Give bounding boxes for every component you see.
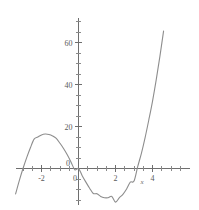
x-tick-label: -2	[38, 174, 45, 183]
x-axis-tick-labels: -224	[38, 174, 154, 183]
x-tick-label: 2	[114, 174, 118, 183]
y-tick-label: 40	[65, 81, 73, 90]
x-axis-name-label: x	[139, 178, 144, 186]
origin-label-x: 0	[73, 174, 77, 183]
plot-figure: -224 204060 0 0 x	[0, 0, 199, 210]
y-tick-label: 20	[65, 123, 73, 132]
plot-svg: -224 204060 0 0 x	[0, 0, 199, 210]
y-axis-tick-labels: 204060	[65, 39, 73, 132]
origin-label-y: 0	[66, 159, 70, 168]
y-tick-label: 60	[65, 39, 73, 48]
x-tick-label: 4	[151, 174, 155, 183]
